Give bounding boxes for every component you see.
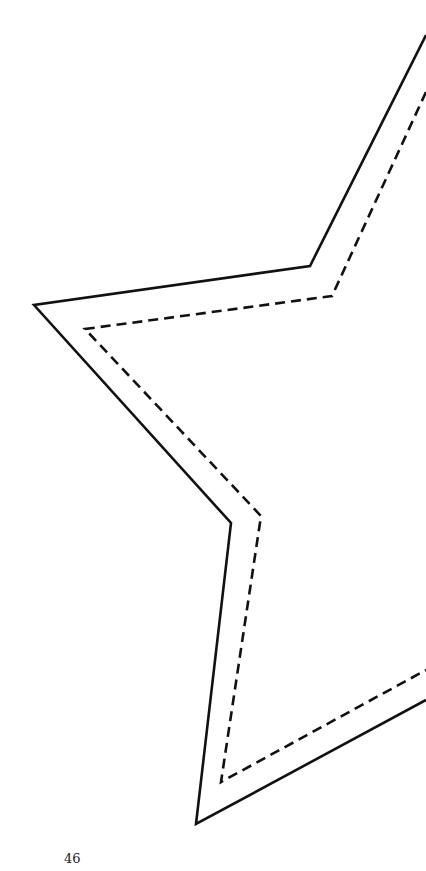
page-number: 46 (64, 851, 81, 866)
template-page: 46 (0, 0, 426, 871)
star-cut-line (34, 35, 426, 824)
star-template-drawing (0, 0, 426, 871)
star-fold-line (85, 92, 426, 782)
